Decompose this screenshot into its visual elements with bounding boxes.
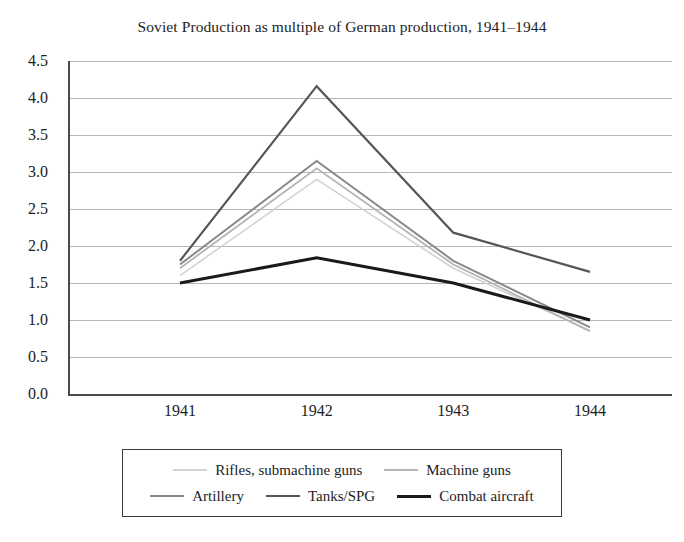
plot-area: 4.54.03.53.02.52.01.51.00.50.0 (68, 61, 672, 394)
y-axis-tick-label: 4.0 (0, 89, 48, 107)
legend-swatch-machine-guns (384, 469, 418, 471)
y-axis-tick-label: 1.0 (0, 311, 48, 329)
gridline-0.0 (68, 394, 672, 396)
legend-item-tanks-spg[interactable]: Tanks/SPG (266, 488, 375, 505)
gridline-2.5 (68, 209, 672, 210)
legend-swatch-rifles-submachine-guns (173, 469, 207, 471)
gridline-1.0 (68, 320, 672, 321)
gridline-1.5 (68, 283, 672, 284)
legend-item-artillery[interactable]: Artillery (150, 488, 244, 505)
legend-item-rifles-submachine-guns[interactable]: Rifles, submachine guns (173, 462, 362, 479)
y-axis-tick-label: 2.0 (0, 237, 48, 255)
gridline-3.0 (68, 172, 672, 173)
x-axis-tick-label-1941: 1941 (120, 402, 240, 420)
chart-legend: Rifles, submachine gunsMachine gunsArtil… (122, 449, 562, 517)
y-axis-tick-label: 0.0 (0, 385, 48, 403)
chart-title: Soviet Production as multiple of German … (0, 18, 684, 36)
legend-label-rifles-submachine-guns: Rifles, submachine guns (215, 462, 362, 479)
legend-swatch-artillery (150, 495, 184, 497)
legend-label-machine-guns: Machine guns (426, 462, 511, 479)
y-axis-tick-label: 0.5 (0, 348, 48, 366)
gridline-0.5 (68, 357, 672, 358)
gridline-2.0 (68, 246, 672, 247)
x-axis-tick-label-1944: 1944 (530, 402, 650, 420)
y-axis-tick-label: 3.0 (0, 163, 48, 181)
chart-container: Soviet Production as multiple of German … (0, 0, 684, 542)
legend-label-combat-aircraft: Combat aircraft (439, 488, 534, 505)
x-axis-tick-label-1943: 1943 (393, 402, 513, 420)
y-axis-tick-label: 1.5 (0, 274, 48, 292)
gridline-4.5 (68, 61, 672, 62)
legend-label-artillery: Artillery (192, 488, 244, 505)
y-axis-tick-label: 4.5 (0, 52, 48, 70)
legend-item-machine-guns[interactable]: Machine guns (384, 462, 511, 479)
legend-row: ArtilleryTanks/SPGCombat aircraft (133, 483, 551, 509)
y-axis-tick-label: 2.5 (0, 200, 48, 218)
legend-swatch-tanks-spg (266, 495, 300, 497)
legend-item-combat-aircraft[interactable]: Combat aircraft (397, 488, 534, 505)
y-axis-tick-label: 3.5 (0, 126, 48, 144)
gridline-4.0 (68, 98, 672, 99)
legend-swatch-combat-aircraft (397, 495, 431, 498)
legend-row: Rifles, submachine gunsMachine guns (133, 457, 551, 483)
y-axis-line (68, 61, 70, 395)
x-axis-tick-label-1942: 1942 (257, 402, 377, 420)
gridline-3.5 (68, 135, 672, 136)
legend-label-tanks-spg: Tanks/SPG (308, 488, 375, 505)
